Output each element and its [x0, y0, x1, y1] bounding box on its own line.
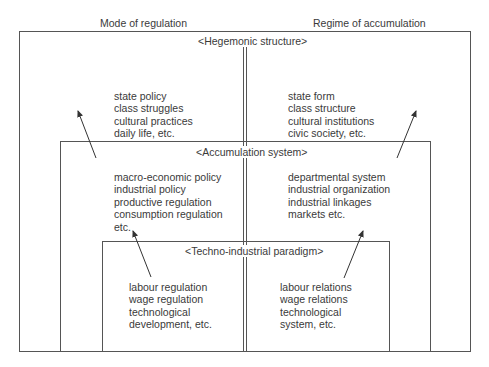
arrow-left-upper	[78, 111, 96, 158]
arrow-left-lower	[133, 231, 151, 277]
hegemonic-regime-of-accumulation-list: state form class structure cultural inst…	[288, 90, 374, 140]
connectors-overlay	[0, 0, 489, 367]
list-item: technological	[280, 306, 352, 318]
list-item: departmental system	[288, 171, 390, 183]
list-item: state policy	[114, 90, 193, 102]
list-item: labour regulation	[129, 281, 212, 293]
list-item: productive regulation	[114, 196, 223, 208]
list-item: wage regulation	[129, 293, 212, 305]
double-line-divider	[244, 45, 247, 352]
arrow-right-upper	[397, 111, 416, 158]
list-item: consumption regulation	[114, 208, 223, 220]
list-item: daily life, etc.	[114, 127, 193, 139]
list-item: industrial policy	[114, 183, 223, 195]
list-item: civic society, etc.	[288, 127, 374, 139]
list-item: cultural institutions	[288, 115, 374, 127]
hegemonic-mode-of-regulation-list: state policy class struggles cultural pr…	[114, 90, 193, 140]
list-item: cultural practices	[114, 115, 193, 127]
label-techno-industrial-paradigm: <Techno-industrial paradigm>	[183, 245, 325, 257]
techno-mode-of-regulation-list: labour regulation wage regulation techno…	[129, 281, 212, 331]
label-hegemonic-structure: <Hegemonic structure>	[196, 35, 309, 47]
list-item: system, etc.	[280, 318, 352, 330]
list-item: class struggles	[114, 102, 193, 114]
list-item: macro-economic policy	[114, 171, 223, 183]
list-item: state form	[288, 90, 374, 102]
list-item: development, etc.	[129, 318, 212, 330]
accumulation-mode-of-regulation-list: macro-economic policy industrial policy …	[114, 171, 223, 233]
list-item: labour relations	[280, 281, 352, 293]
accumulation-regime-of-accumulation-list: departmental system industrial organizat…	[288, 171, 390, 221]
list-item: markets etc.	[288, 208, 390, 220]
arrow-right-lower	[344, 231, 363, 278]
list-item: technological	[129, 306, 212, 318]
list-item: wage relations	[280, 293, 352, 305]
list-item: etc.	[114, 221, 223, 233]
list-item: industrial linkages	[288, 196, 390, 208]
list-item: class structure	[288, 102, 374, 114]
techno-regime-of-accumulation-list: labour relations wage relations technolo…	[280, 281, 352, 331]
list-item: industrial organization	[288, 183, 390, 195]
label-accumulation-system: <Accumulation system>	[194, 146, 309, 158]
